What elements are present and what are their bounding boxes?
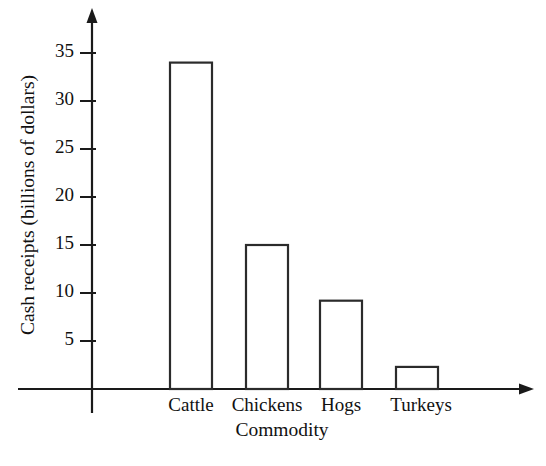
x-category-labels: Cattle Chickens Hogs Turkeys: [168, 394, 451, 415]
y-axis-arrowhead: [87, 8, 98, 23]
x-axis-arrowhead: [519, 384, 534, 395]
y-tick-label-15: 15: [55, 232, 74, 253]
y-axis-title: Cash receipts (billions of dollars): [17, 75, 39, 335]
bar-cattle: [170, 63, 212, 389]
y-tick-label-20: 20: [55, 184, 74, 205]
y-tick-labels: 35 30 25 20 15 10 5: [55, 40, 74, 349]
x-tick-label-hogs: Hogs: [321, 394, 361, 415]
bar-turkeys: [396, 367, 438, 389]
x-tick-label-turkeys: Turkeys: [390, 394, 452, 415]
x-tick-label-chickens: Chickens: [232, 394, 303, 415]
y-tick-label-5: 5: [65, 328, 75, 349]
y-tick-marks: [80, 53, 96, 341]
bar-hogs: [320, 301, 362, 389]
x-tick-label-cattle: Cattle: [168, 394, 213, 415]
y-tick-label-10: 10: [55, 280, 74, 301]
y-tick-label-30: 30: [55, 88, 74, 109]
y-tick-label-35: 35: [55, 40, 74, 61]
bar-chickens: [246, 245, 288, 389]
x-axis-title: Commodity: [235, 419, 328, 440]
chart-canvas: 35 30 25 20 15 10 5 Cattle Chickens Hogs…: [0, 0, 546, 466]
y-tick-label-25: 25: [55, 136, 74, 157]
bars-group: [170, 63, 438, 389]
y-axis: [87, 8, 98, 413]
bar-chart-figure: 35 30 25 20 15 10 5 Cattle Chickens Hogs…: [0, 0, 546, 466]
